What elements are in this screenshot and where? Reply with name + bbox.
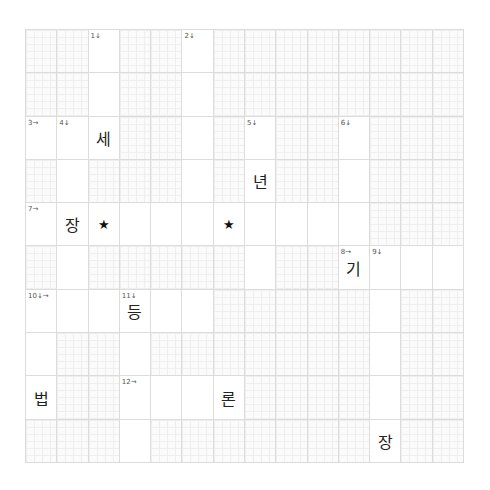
blocked-cell xyxy=(214,160,245,203)
crossword-cell[interactable] xyxy=(245,246,276,289)
blocked-cell xyxy=(26,73,57,116)
crossword-cell[interactable]: 1↓ xyxy=(89,30,120,73)
crossword-cell[interactable] xyxy=(120,420,151,463)
blocked-cell xyxy=(339,333,370,376)
blocked-cell xyxy=(401,73,432,116)
blocked-cell xyxy=(339,73,370,116)
crossword-cell[interactable] xyxy=(57,246,88,289)
crossword-cell[interactable] xyxy=(339,203,370,246)
blocked-cell xyxy=(401,376,432,419)
crossword-cell[interactable] xyxy=(433,246,464,289)
blocked-cell xyxy=(214,333,245,376)
cell-letter: 장 xyxy=(370,420,400,462)
blocked-cell xyxy=(308,160,339,203)
crossword-cell[interactable] xyxy=(26,333,57,376)
blocked-cell xyxy=(214,290,245,333)
clue-number: 3→ xyxy=(28,119,38,127)
crossword-cell[interactable] xyxy=(245,203,276,246)
clue-number: 10↓→ xyxy=(28,292,49,300)
blocked-cell xyxy=(276,290,307,333)
blocked-cell xyxy=(433,420,464,463)
blocked-cell xyxy=(401,160,432,203)
crossword-cell[interactable] xyxy=(182,117,213,160)
blocked-cell xyxy=(276,160,307,203)
blocked-cell xyxy=(245,30,276,73)
crossword-cell[interactable]: 11↓등 xyxy=(120,290,151,333)
blocked-cell xyxy=(245,290,276,333)
blocked-cell xyxy=(182,420,213,463)
blocked-cell xyxy=(433,376,464,419)
crossword-cell[interactable] xyxy=(57,160,88,203)
crossword-cell[interactable]: 12→ xyxy=(120,376,151,419)
blocked-cell xyxy=(433,333,464,376)
crossword-cell[interactable] xyxy=(370,376,401,419)
blocked-cell xyxy=(151,73,182,116)
crossword-cell[interactable]: 10↓→ xyxy=(26,290,57,333)
blocked-cell xyxy=(370,160,401,203)
crossword-cell[interactable]: 9↓ xyxy=(370,246,401,289)
blocked-cell xyxy=(245,73,276,116)
crossword-cell[interactable] xyxy=(182,376,213,419)
crossword-cell[interactable]: 장 xyxy=(370,420,401,463)
crossword-cell[interactable]: 론 xyxy=(214,376,245,419)
crossword-cell[interactable] xyxy=(370,333,401,376)
blocked-cell xyxy=(276,73,307,116)
blocked-cell xyxy=(151,333,182,376)
blocked-cell xyxy=(89,376,120,419)
crossword-cell[interactable]: 6↓ xyxy=(339,117,370,160)
crossword-cell[interactable]: 법 xyxy=(26,376,57,419)
crossword-cell[interactable] xyxy=(370,290,401,333)
blocked-cell xyxy=(89,246,120,289)
blocked-cell xyxy=(370,203,401,246)
crossword-cell[interactable]: 년 xyxy=(245,160,276,203)
crossword-cell[interactable] xyxy=(89,73,120,116)
blocked-cell xyxy=(276,117,307,160)
crossword-cell[interactable] xyxy=(339,160,370,203)
blocked-cell xyxy=(151,160,182,203)
crossword-cell[interactable]: 장 xyxy=(57,203,88,246)
blocked-cell xyxy=(245,333,276,376)
crossword-cell[interactable] xyxy=(89,290,120,333)
crossword-cell[interactable] xyxy=(308,203,339,246)
crossword-cell[interactable]: 5↓ xyxy=(245,117,276,160)
crossword-cell[interactable] xyxy=(182,160,213,203)
blocked-cell xyxy=(182,246,213,289)
crossword-cell[interactable]: 2↓ xyxy=(182,30,213,73)
blocked-cell xyxy=(26,420,57,463)
crossword-cell[interactable] xyxy=(182,73,213,116)
blocked-cell xyxy=(26,160,57,203)
crossword-cell[interactable]: 3→ xyxy=(26,117,57,160)
crossword-cell[interactable]: ★ xyxy=(214,203,245,246)
crossword-cell[interactable] xyxy=(120,203,151,246)
crossword-cell[interactable] xyxy=(401,246,432,289)
clue-number: 1↓ xyxy=(91,32,101,40)
crossword-cell[interactable] xyxy=(151,290,182,333)
crossword-cell[interactable]: 7→ xyxy=(26,203,57,246)
crossword-cell[interactable] xyxy=(151,376,182,419)
crossword-cell[interactable] xyxy=(120,333,151,376)
blocked-cell xyxy=(401,420,432,463)
cell-letter: 법 xyxy=(26,376,56,418)
blocked-cell xyxy=(214,420,245,463)
crossword-cell[interactable] xyxy=(151,203,182,246)
blocked-cell xyxy=(120,30,151,73)
crossword-cell[interactable] xyxy=(182,203,213,246)
blocked-cell xyxy=(89,420,120,463)
blocked-cell xyxy=(433,203,464,246)
crossword-cell[interactable] xyxy=(182,290,213,333)
crossword-cell[interactable]: 8→기 xyxy=(339,246,370,289)
blocked-cell xyxy=(276,246,307,289)
crossword-cell[interactable] xyxy=(276,203,307,246)
crossword-cell[interactable]: 4↓ xyxy=(57,117,88,160)
blocked-cell xyxy=(26,30,57,73)
blocked-cell xyxy=(401,203,432,246)
blocked-cell xyxy=(151,30,182,73)
blocked-cell xyxy=(308,290,339,333)
crossword-cell[interactable] xyxy=(57,290,88,333)
blocked-cell xyxy=(57,376,88,419)
blocked-cell xyxy=(182,333,213,376)
blocked-cell xyxy=(120,73,151,116)
blocked-cell xyxy=(276,333,307,376)
crossword-cell[interactable]: ★ xyxy=(89,203,120,246)
crossword-cell[interactable]: 세 xyxy=(89,117,120,160)
